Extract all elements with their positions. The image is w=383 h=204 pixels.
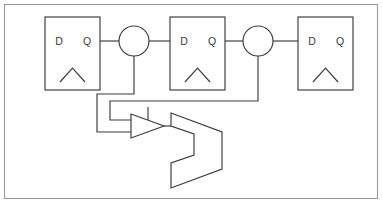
schematic-canvas: D Q D Q D Q [0, 0, 383, 204]
logic-gate-body[interactable] [171, 113, 222, 188]
flip-flop-2-d-label: D [180, 35, 188, 47]
inverting-bubble-1-icon[interactable] [119, 26, 149, 56]
buffer-amplifier[interactable] [131, 107, 164, 138]
circuit-diagram: D Q D Q D Q [0, 0, 383, 204]
flip-flop-1[interactable]: D Q [45, 17, 100, 90]
flip-flop-3-d-label: D [308, 35, 316, 47]
flip-flop-3-body [298, 17, 353, 90]
flip-flop-2-q-label: Q [208, 35, 216, 47]
flip-flop-3-q-label: Q [336, 35, 344, 47]
flip-flop-2[interactable]: D Q [170, 17, 225, 90]
flip-flop-1-q-label: Q [83, 35, 91, 47]
flip-flop-1-body [45, 17, 100, 90]
flip-flop-3[interactable]: D Q [298, 17, 353, 90]
flip-flop-1-d-label: D [55, 35, 63, 47]
flip-flop-2-body [170, 17, 225, 90]
wire-bubble1-feedback [97, 56, 134, 132]
inverting-bubble-2-icon[interactable] [243, 26, 273, 56]
